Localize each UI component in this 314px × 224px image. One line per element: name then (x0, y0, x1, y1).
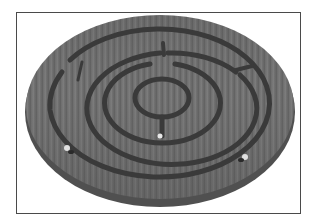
ball-left (64, 145, 70, 151)
ball-center (158, 134, 163, 139)
board-top (26, 15, 294, 199)
labyrinth-photo (0, 0, 314, 224)
groove-radial-top (163, 43, 164, 55)
